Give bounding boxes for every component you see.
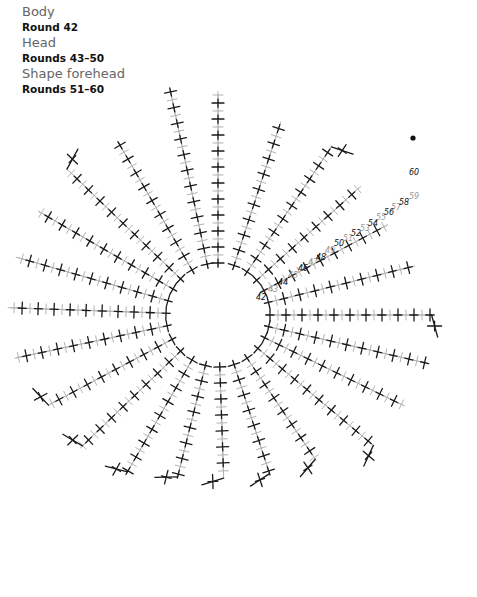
stitch-rays — [8, 88, 441, 489]
round-label: 44 — [278, 278, 288, 287]
round-label: 43 — [268, 285, 278, 294]
crochet-chart: 42434445464748495051525354555657585960 — [0, 0, 477, 597]
round-label: 58 — [399, 198, 409, 207]
round-label: 59 — [409, 192, 419, 201]
round-label: 46 — [298, 264, 308, 273]
round-label: 42 — [256, 293, 266, 302]
start-marker-dot — [410, 135, 415, 140]
round-label: 45 — [288, 271, 298, 280]
round-label: 60 — [409, 168, 419, 177]
